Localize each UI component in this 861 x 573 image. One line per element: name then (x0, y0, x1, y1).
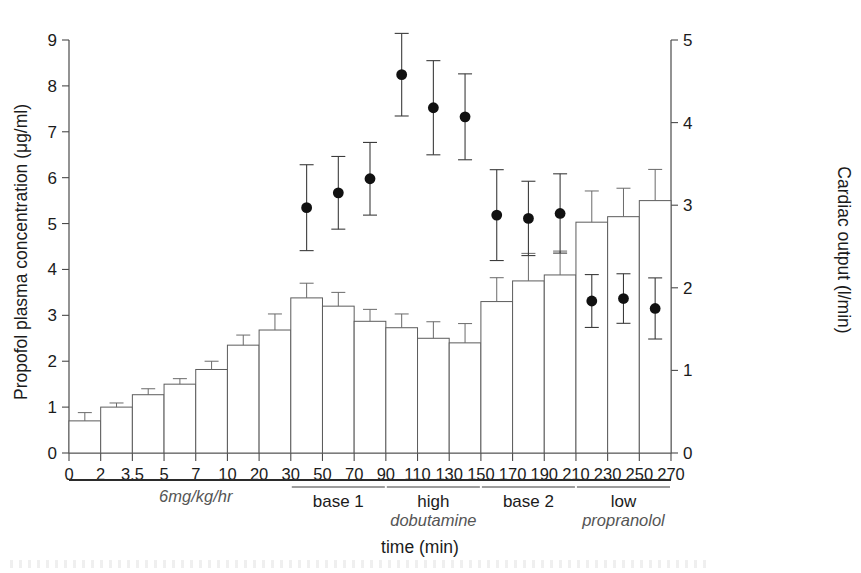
bar-errorbar (521, 253, 535, 281)
bar-errorbar (173, 379, 187, 385)
y-tick-label-left: 3 (48, 306, 57, 325)
scan-artifact-strip (10, 560, 710, 568)
data-point-with-errorbar (521, 181, 535, 255)
bar (259, 330, 291, 453)
data-point-with-errorbar (458, 74, 472, 160)
y-axis-right-title: Cardiac output (l/min) (834, 166, 854, 333)
data-point-marker (396, 69, 407, 80)
bar-errorbar (395, 314, 409, 328)
y-tick-label-left: 7 (48, 123, 57, 142)
bar (322, 306, 354, 453)
data-point-marker (555, 208, 566, 219)
bar-series-propofol (69, 201, 671, 453)
bar-errorbar (268, 314, 282, 330)
bar (608, 217, 640, 453)
y-tick-label-right: 0 (683, 444, 692, 463)
data-point-marker (523, 213, 534, 224)
data-point-marker (365, 173, 376, 184)
y-tick-label-left: 2 (48, 352, 57, 371)
y-tick-label-left: 8 (48, 77, 57, 96)
group-bracket: base 1 (292, 487, 385, 511)
bar-errorbar (110, 403, 124, 407)
bar-errorbar (236, 335, 250, 345)
bar (449, 343, 481, 453)
bar-errorbar (585, 191, 599, 222)
group-bracket: base 2 (482, 487, 575, 511)
bar-errorbar (78, 413, 92, 421)
bar (132, 395, 164, 453)
data-point-with-errorbar (395, 33, 409, 116)
bar-errorbar (553, 251, 567, 275)
group-drug-label: propranolol (581, 511, 666, 529)
y-tick-label-right: 5 (683, 31, 692, 50)
y-tick-label-right: 2 (683, 279, 692, 298)
data-point-marker (586, 296, 597, 307)
y-tick-label-left: 4 (48, 260, 57, 279)
bar (513, 281, 545, 453)
y-axis-left-title: Propofol plasma concentration (μg/ml) (11, 104, 31, 400)
data-point-marker (301, 202, 312, 213)
bar-errorbar (205, 361, 219, 369)
data-point-with-errorbar (426, 61, 440, 155)
group-annotations: 6mg/kg/hrbase 1highdobutaminebase 2lowpr… (69, 480, 671, 529)
y-tick-label-left: 6 (48, 169, 57, 188)
y-axis-left: 0123456789 (48, 31, 69, 463)
y-tick-label-right: 1 (683, 361, 692, 380)
bar (69, 421, 101, 453)
bar (101, 407, 133, 453)
bar-errorbar (616, 188, 630, 216)
data-point-marker (618, 293, 629, 304)
bar-errorbar (331, 292, 345, 306)
infusion-rate-label: 6mg/kg/hr (159, 487, 234, 505)
group-label: low (611, 492, 637, 511)
data-point-marker (650, 303, 661, 314)
bar (386, 328, 418, 453)
bar-errorbar (300, 283, 314, 298)
y-tick-label-right: 4 (683, 114, 692, 133)
bar (481, 302, 513, 453)
data-point-with-errorbar (363, 142, 377, 215)
figure-container: 0123456789 012345 023.557102030507090110… (0, 0, 861, 573)
y-tick-label-left: 5 (48, 215, 57, 234)
y-tick-label-left: 9 (48, 31, 57, 50)
bar-errorbar (458, 324, 472, 343)
chart-canvas: 0123456789 012345 023.557102030507090110… (0, 0, 861, 573)
group-label: base 1 (313, 492, 364, 511)
x-axis-title: time (min) (381, 537, 459, 557)
bar-errorbar (490, 278, 504, 302)
data-point-with-errorbar (331, 156, 345, 229)
y-tick-label-right: 3 (683, 196, 692, 215)
bar (418, 338, 450, 453)
bar-errorbar (426, 322, 440, 339)
bar (227, 345, 259, 453)
data-point-marker (460, 111, 471, 122)
bar (354, 321, 386, 453)
group-bracket: lowpropranolol (577, 487, 670, 529)
bar (291, 298, 323, 453)
bar (544, 275, 576, 453)
group-label: high (417, 492, 449, 511)
data-point-with-errorbar (553, 174, 567, 253)
y-tick-label-left: 0 (48, 444, 57, 463)
data-point-marker (333, 187, 344, 198)
x-axis: 023.557102030507090110130150170190210230… (64, 453, 684, 483)
bar (576, 222, 608, 453)
bar-errorbar (648, 169, 662, 200)
bar (196, 369, 228, 453)
data-point-marker (491, 210, 502, 221)
bar-errorbar (141, 389, 155, 395)
group-drug-label: dobutamine (390, 511, 476, 529)
bar (164, 384, 196, 453)
data-point-with-errorbar (490, 170, 504, 261)
group-bracket: highdobutamine (387, 487, 480, 529)
group-label: base 2 (503, 492, 554, 511)
data-point-marker (428, 102, 439, 113)
bar-errorbar (363, 309, 377, 321)
data-point-with-errorbar (300, 165, 314, 251)
y-axis-right: 012345 (671, 31, 692, 463)
y-tick-label-left: 1 (48, 398, 57, 417)
